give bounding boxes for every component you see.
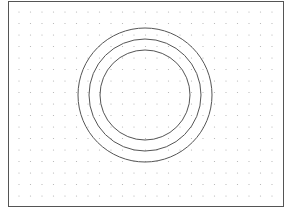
grid-dot [76, 161, 77, 162]
grid-dot [30, 11, 31, 12]
grid-dot [225, 92, 226, 93]
grid-dot [168, 34, 169, 35]
grid-dot [30, 69, 31, 70]
grid-dot [237, 172, 238, 173]
grid-dot [191, 92, 192, 93]
concentric-circles [78, 28, 212, 162]
grid-dot [202, 57, 203, 58]
grid-dot [76, 184, 77, 185]
grid-dot [133, 115, 134, 116]
grid-dot [168, 138, 169, 139]
grid-dot [225, 195, 226, 196]
grid-dot [110, 149, 111, 150]
grid-dot [76, 34, 77, 35]
grid-dot [18, 69, 19, 70]
grid-dot [87, 34, 88, 35]
grid-dot [30, 80, 31, 81]
grid-dot [30, 92, 31, 93]
grid-dot [18, 46, 19, 47]
grid-dot [202, 184, 203, 185]
grid-dot [53, 34, 54, 35]
grid-dot [18, 184, 19, 185]
grid-dot [271, 80, 272, 81]
grid-dot [99, 34, 100, 35]
grid-dot [64, 161, 65, 162]
grid-dot [225, 115, 226, 116]
grid-dot [202, 23, 203, 24]
grid-dot [87, 184, 88, 185]
grid-dot [110, 80, 111, 81]
grid-dot [214, 46, 215, 47]
grid-dot [202, 172, 203, 173]
grid-dot [53, 57, 54, 58]
grid-dot [191, 11, 192, 12]
grid-dot [99, 184, 100, 185]
grid-dot [87, 92, 88, 93]
grid-dot [260, 46, 261, 47]
grid-dot [87, 69, 88, 70]
grid-dot [41, 126, 42, 127]
grid-dot [156, 69, 157, 70]
grid-dot [271, 161, 272, 162]
grid-dot [110, 46, 111, 47]
grid-dot [260, 195, 261, 196]
grid-dot [156, 172, 157, 173]
grid-dot [122, 11, 123, 12]
grid-dot [99, 11, 100, 12]
grid-dot [225, 23, 226, 24]
grid-dot [145, 23, 146, 24]
grid-dot [99, 80, 100, 81]
grid-dot [122, 184, 123, 185]
grid-dot [145, 115, 146, 116]
grid-dot [76, 195, 77, 196]
grid-dot [202, 161, 203, 162]
grid-dot [53, 195, 54, 196]
grid-dot [260, 23, 261, 24]
grid-dot [260, 184, 261, 185]
grid-dot [168, 11, 169, 12]
grid-dot [122, 57, 123, 58]
grid-dot [41, 92, 42, 93]
grid-dot [248, 195, 249, 196]
grid-dot [122, 69, 123, 70]
grid-dot [168, 46, 169, 47]
grid-dot [260, 80, 261, 81]
grid-dot [237, 34, 238, 35]
grid-dot [168, 115, 169, 116]
grid-dot [248, 80, 249, 81]
grid-dot [87, 23, 88, 24]
grid-dot [76, 103, 77, 104]
grid-dot [76, 126, 77, 127]
grid-dot [41, 149, 42, 150]
grid-dot [237, 195, 238, 196]
grid-dot [191, 138, 192, 139]
grid-dot [122, 46, 123, 47]
grid-dot [110, 115, 111, 116]
grid-dot [76, 23, 77, 24]
grid-dot [214, 34, 215, 35]
grid-dot [122, 23, 123, 24]
grid-dot [237, 149, 238, 150]
grid-dot [18, 126, 19, 127]
grid-dot [41, 11, 42, 12]
grid-dot [248, 149, 249, 150]
grid-dot [237, 161, 238, 162]
grid-dot [64, 172, 65, 173]
grid-dot [41, 69, 42, 70]
grid-dot [133, 23, 134, 24]
grid-dot [99, 57, 100, 58]
grid-dot [225, 184, 226, 185]
grid-dot [248, 115, 249, 116]
grid-dot [145, 103, 146, 104]
grid-dot [271, 69, 272, 70]
grid-dot [110, 103, 111, 104]
grid-dot [76, 172, 77, 173]
grid-dot [156, 11, 157, 12]
grid-dot [179, 103, 180, 104]
grid-dot [145, 172, 146, 173]
grid-dot [225, 172, 226, 173]
grid-dot [156, 184, 157, 185]
circle-2 [89, 39, 201, 151]
grid-dot [225, 57, 226, 58]
grid-dot [156, 115, 157, 116]
